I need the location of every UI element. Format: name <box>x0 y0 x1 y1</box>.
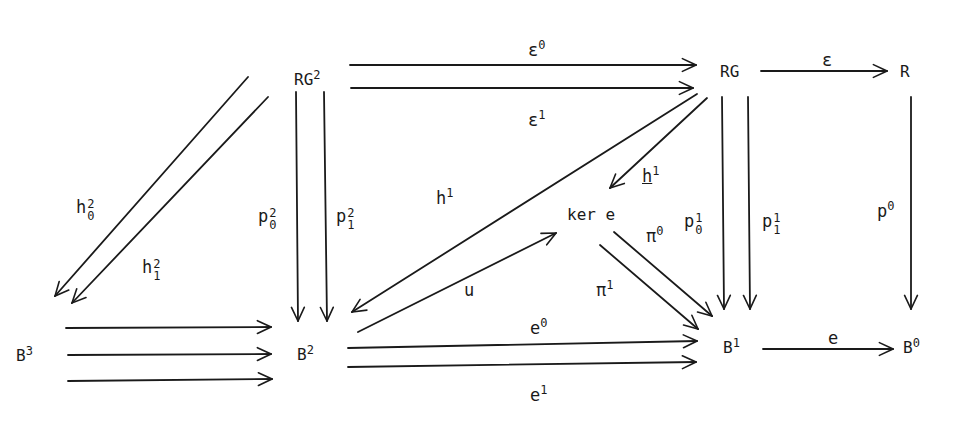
label-h1-under: h1 <box>642 168 659 185</box>
node-B2-sup: 2 <box>307 343 314 357</box>
arrow-pi1 <box>600 245 698 329</box>
arrow-h1-2 <box>72 97 268 303</box>
arrow-p1-2 <box>324 92 327 321</box>
arrow-b3-b2-1 <box>66 327 271 328</box>
label-p1-1: p11 <box>762 210 780 234</box>
label-e: e <box>828 330 838 347</box>
label-h1-under-base: h <box>642 166 652 186</box>
label-eps1: ε1 <box>528 112 545 129</box>
node-B2: B2 <box>297 347 314 363</box>
label-eps1-base: ε <box>528 110 538 130</box>
label-pi1: π1 <box>596 282 613 299</box>
label-p0-1: p10 <box>684 210 702 234</box>
label-h1-base: h <box>436 188 446 208</box>
node-B1: B1 <box>723 340 740 356</box>
node-B1-sup: 1 <box>733 336 740 350</box>
label-h1: h1 <box>436 190 453 207</box>
label-e0: e0 <box>530 320 547 337</box>
label-p0: p0 <box>877 203 894 220</box>
label-pi0-base: π <box>646 226 656 246</box>
label-eps: ε <box>822 52 832 69</box>
label-eps-base: ε <box>822 50 832 70</box>
node-R-base: R <box>900 62 910 81</box>
label-e0-sup: 0 <box>540 316 547 330</box>
label-e1-sup: 1 <box>540 383 547 397</box>
arrow-b3-b2-2 <box>68 354 271 355</box>
label-pi1-base: π <box>596 280 606 300</box>
label-p1-2-sub: 1 <box>347 219 354 231</box>
arrow-e0 <box>348 341 697 348</box>
node-B3-sup: 3 <box>26 344 33 358</box>
arrow-p1-1 <box>748 97 750 309</box>
node-B0-base: B <box>903 338 913 357</box>
label-pi0: π0 <box>646 228 663 245</box>
node-B0: B0 <box>903 340 920 356</box>
node-RG2: RG2 <box>294 72 321 88</box>
node-B2-base: B <box>297 345 307 364</box>
node-ker-e: ker e <box>567 207 615 223</box>
arrow-h1 <box>352 94 697 312</box>
label-e-base: e <box>828 328 838 348</box>
label-eps0-sup: 0 <box>538 38 545 52</box>
label-pi1-sup: 1 <box>606 278 613 292</box>
node-B1-base: B <box>723 338 733 357</box>
label-p0-1-sub: 0 <box>695 224 702 236</box>
arrow-p0-1 <box>722 97 724 309</box>
label-p1-1-base: p <box>762 211 772 231</box>
node-B0-sup: 0 <box>913 336 920 350</box>
node-RG-base: RG <box>720 62 739 81</box>
label-h1-under-sup: 1 <box>652 164 659 178</box>
label-eps0: ε0 <box>528 42 545 59</box>
label-h1-2-base: h <box>142 257 152 277</box>
label-p0-base: p <box>877 201 887 221</box>
node-RG2-base: RG <box>294 70 313 89</box>
node-RG: RG <box>720 64 739 80</box>
arrow-b3-b2-3 <box>68 379 272 381</box>
node-B3-base: B <box>16 346 26 365</box>
node-R: R <box>900 64 910 80</box>
label-eps0-base: ε <box>528 40 538 60</box>
label-e0-base: e <box>530 318 540 338</box>
label-h0-2-sub: 0 <box>87 210 94 222</box>
label-p0-2: p20 <box>258 205 276 229</box>
label-h0-2: h20 <box>76 196 94 220</box>
arrow-e1 <box>348 362 696 367</box>
label-p1-2: p21 <box>336 205 354 229</box>
label-eps1-sup: 1 <box>538 108 545 122</box>
label-u-base: u <box>464 280 474 300</box>
label-h1-2-sub: 1 <box>153 270 160 282</box>
label-h1-sup: 1 <box>446 186 453 200</box>
label-h1-2: h21 <box>142 256 160 280</box>
label-p0-2-sub: 0 <box>269 219 276 231</box>
arrow-p0-2 <box>296 92 298 321</box>
label-p0-2-base: p <box>258 206 268 226</box>
label-h0-2-base: h <box>76 197 86 217</box>
label-pi0-sup: 0 <box>656 224 663 238</box>
arrow-u <box>358 233 556 332</box>
label-p0-sup: 0 <box>887 199 894 213</box>
node-RG2-sup: 2 <box>313 68 320 82</box>
node-B3: B3 <box>16 348 33 364</box>
label-e1-base: e <box>530 385 540 405</box>
label-p0-1-base: p <box>684 211 694 231</box>
label-p1-1-sub: 1 <box>773 224 780 236</box>
label-e1: e1 <box>530 387 547 404</box>
node-ker-e-base: ker e <box>567 205 615 224</box>
label-p1-2-base: p <box>336 206 346 226</box>
label-u: u <box>464 282 474 299</box>
commutative-diagram: RG2 RG R B3 B2 ker e B1 B0 ε0 ε1 ε h20 h… <box>0 0 971 431</box>
